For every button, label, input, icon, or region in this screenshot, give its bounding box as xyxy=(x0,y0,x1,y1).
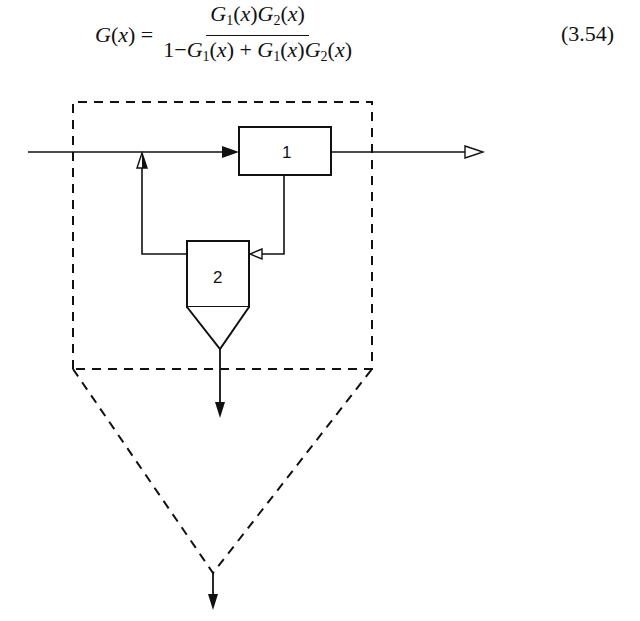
block-2: 2 xyxy=(187,241,249,349)
block-2-hopper xyxy=(187,307,249,349)
block-2-label: 2 xyxy=(213,268,222,287)
combined-underflow xyxy=(208,573,218,610)
block-2-underflow xyxy=(215,349,225,418)
product-output xyxy=(331,146,483,158)
block-1: 1 xyxy=(239,127,331,175)
recycle-flow xyxy=(137,153,187,254)
feed-line xyxy=(28,146,239,158)
flow-diagram: 1 2 xyxy=(0,0,640,621)
block-1-label: 1 xyxy=(282,143,291,162)
block1-to-block2-flow xyxy=(250,175,284,259)
